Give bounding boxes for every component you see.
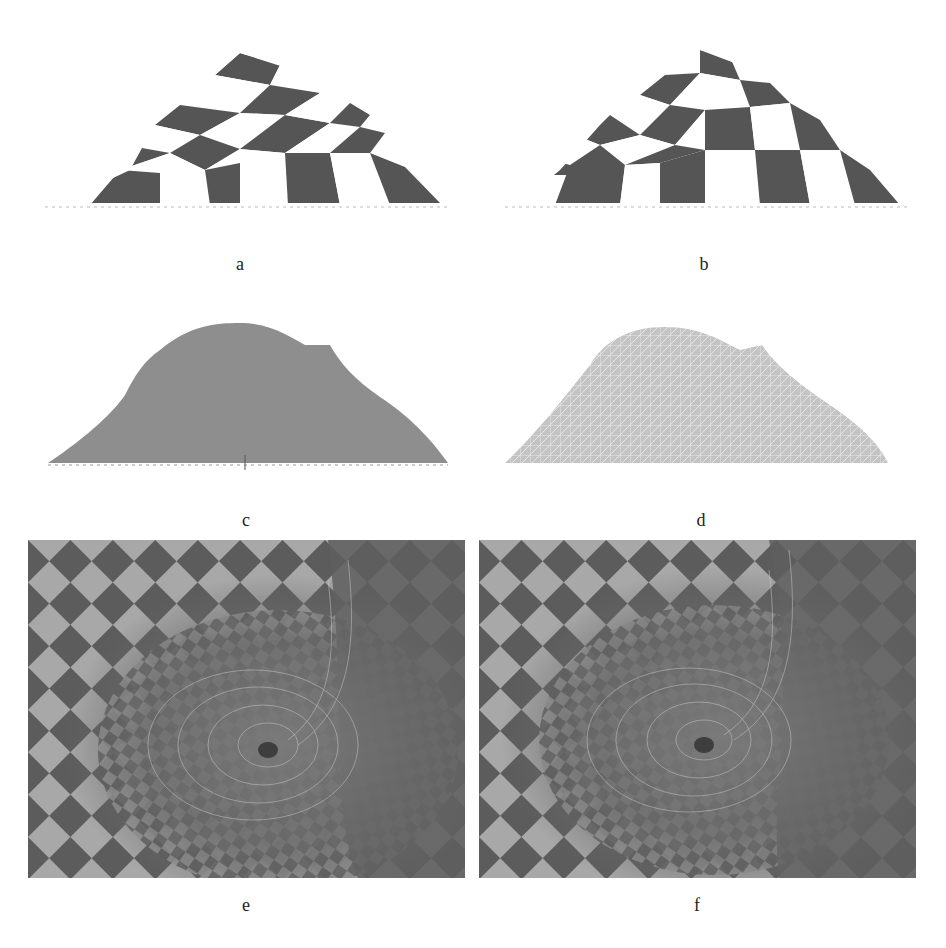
checker-dome-b-graphic [500, 45, 920, 215]
panel-c-label: c [231, 510, 261, 531]
panel-e-swirl-closeup [28, 540, 465, 878]
panel-e-label: e [231, 895, 261, 916]
panel-d-label: d [686, 510, 716, 531]
shaded-dome-graphic [40, 305, 460, 475]
swirl-closeup-e-graphic [28, 540, 465, 878]
panel-f-label: f [682, 895, 712, 916]
panel-b-checker-dome [500, 45, 920, 215]
panel-a-checker-dome [40, 45, 460, 215]
panel-b-label: b [689, 254, 719, 275]
panel-c-shaded-dome [40, 305, 460, 475]
swirl-closeup-f-graphic [479, 540, 916, 878]
checker-dome-a-graphic [40, 45, 460, 215]
panel-d-wireframe-dome [500, 305, 920, 475]
panel-a-label: a [225, 254, 255, 275]
panel-f-swirl-closeup [479, 540, 916, 878]
wireframe-dome-graphic [500, 305, 920, 475]
